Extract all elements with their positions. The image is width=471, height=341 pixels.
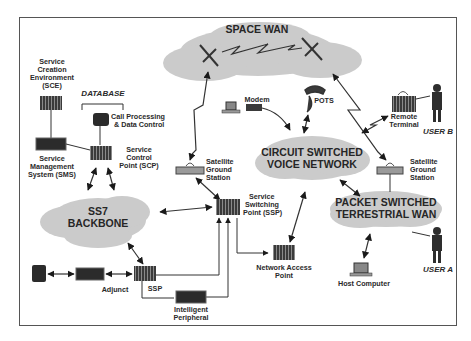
nap-rack-icon	[273, 245, 295, 260]
ssp-main-rack-icon	[216, 199, 240, 215]
sat-left-line3: Station	[206, 174, 234, 182]
remote-terminal-label: Remote Terminal	[386, 113, 422, 129]
sms-label-line3: System (SMS)	[24, 171, 80, 179]
ssp-main-label: Service Switching Point (SSP)	[243, 193, 282, 217]
sms-label: Service Management System (SMS)	[24, 155, 80, 179]
call-processing-label: Call Processing & Data Control	[111, 113, 165, 129]
downlink-left	[190, 72, 208, 160]
ssp-main-line3: Point (SSP)	[243, 209, 282, 217]
database-bracket	[82, 104, 123, 110]
user-b-label: USER B	[421, 128, 455, 137]
scp-label: Service Control Point (SCP)	[114, 146, 164, 170]
scp-label-line3: Point (SCP)	[114, 162, 164, 170]
ssp-feed-2	[206, 218, 228, 297]
pots-label: POTS	[312, 97, 336, 105]
ssp-nap-link	[237, 218, 268, 253]
circuit-label-line1: CIRCUIT SWITCHED	[255, 147, 369, 159]
network-access-point-label: Network Access Point	[252, 264, 316, 280]
ss7-label-line1: SS7	[60, 206, 136, 218]
sce-label-line4: (SCE)	[22, 82, 82, 90]
sce-label: Service Creation Environment (SCE)	[22, 58, 82, 90]
nap-circuit-link	[290, 192, 305, 242]
user-b-figure-icon	[432, 84, 442, 122]
scp-ss7-link-b	[108, 168, 114, 190]
satellite-ground-station-right-label: Satellite Ground Station	[410, 158, 438, 182]
database-label: DATABASE	[80, 90, 126, 99]
user-a-label: USER A	[421, 266, 455, 275]
remote-link	[362, 116, 388, 133]
intelligent-peripheral-label: Intelligent Peripheral	[170, 306, 212, 322]
sms-server-icon	[36, 138, 66, 150]
ssp-small-label: SSP	[145, 285, 165, 293]
satellite-ground-station-left-label: Satellite Ground Station	[206, 158, 234, 182]
modem-link	[262, 108, 290, 130]
sce-rack-icon	[40, 96, 62, 110]
scp-ss7-link-a	[88, 168, 96, 190]
packet-label-line1: PACKET SWITCHED	[330, 197, 442, 209]
ssp-feed-1	[155, 218, 219, 275]
adjunct-label: Adjunct	[100, 286, 130, 294]
packet-host-link	[364, 234, 370, 258]
ground-station-left-icon	[176, 167, 204, 174]
ss7-ssp-link	[160, 207, 212, 212]
adjunct-server-icon	[76, 268, 104, 280]
sat-right-line3: Station	[410, 174, 438, 182]
remote-terminal-icon	[392, 96, 416, 112]
ss7-label-line2: BACKBONE	[60, 218, 136, 230]
ss7-small-ssp-link	[128, 243, 143, 264]
intelligent-peripheral-icon	[176, 291, 206, 303]
host-computer-label: Host Computer	[336, 280, 392, 288]
pots-link	[304, 115, 308, 133]
packet-label-line2: TERRESTRIAL WAN	[330, 209, 442, 221]
scp-rack-icon	[90, 146, 112, 160]
circuit-label-line2: VOICE NETWORK	[255, 159, 369, 171]
ssp-small-rack-icon	[134, 266, 156, 281]
space-wan-label: SPACE WAN	[212, 24, 302, 36]
remote-line2: Terminal	[386, 121, 422, 129]
user-a-link	[412, 232, 430, 236]
adjunct-db-icon	[32, 265, 46, 282]
modem-label: Modem	[242, 96, 272, 104]
ip-line2: Peripheral	[170, 314, 212, 322]
ground-station-right-icon	[377, 167, 403, 174]
user-a-figure-icon	[432, 227, 442, 263]
nap-line2: Point	[252, 272, 316, 280]
host-computer-icon	[354, 263, 368, 273]
circuit-packet-link	[340, 180, 360, 196]
modem-pc-icon	[226, 102, 236, 110]
call-processing-db-icon	[93, 113, 109, 126]
call-processing-line2: & Data Control	[111, 121, 165, 129]
modem-icon	[246, 104, 262, 111]
